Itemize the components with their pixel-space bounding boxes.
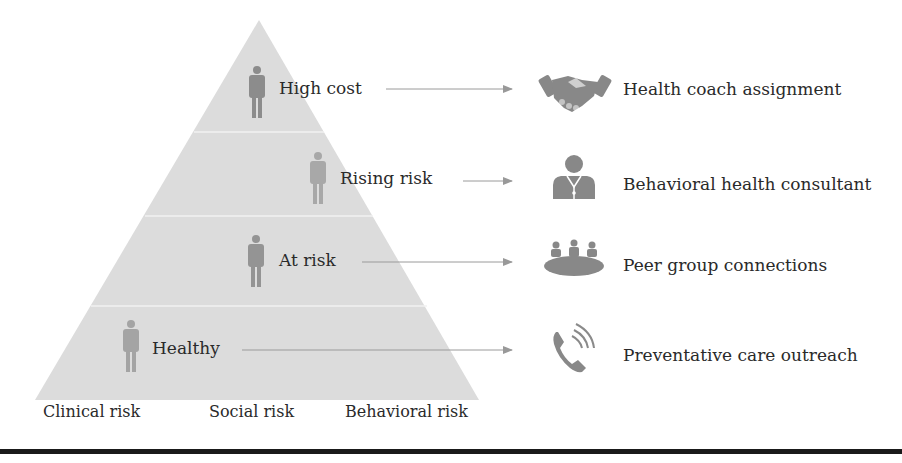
risk-pyramid-diagram: High cost Rising risk At risk Healthy He… bbox=[0, 0, 902, 463]
phone-call-icon bbox=[553, 324, 594, 372]
diagram-graphics bbox=[0, 0, 902, 463]
intervention-peer-group: Peer group connections bbox=[623, 257, 827, 274]
bottom-rule bbox=[0, 449, 902, 454]
group-meeting-icon bbox=[544, 240, 604, 277]
intervention-behavioral-consultant: Behavioral health consultant bbox=[623, 176, 871, 193]
axis-label-behavioral-risk: Behavioral risk bbox=[345, 404, 468, 420]
consultant-doctor-icon bbox=[553, 155, 595, 199]
tier-label-healthy: Healthy bbox=[152, 340, 220, 357]
intervention-preventative-outreach: Preventative care outreach bbox=[623, 347, 858, 364]
intervention-health-coach: Health coach assignment bbox=[623, 81, 841, 98]
handshake-icon bbox=[538, 74, 612, 112]
tier-label-high-cost: High cost bbox=[279, 80, 362, 97]
axis-label-social-risk: Social risk bbox=[209, 404, 294, 420]
tier-label-rising-risk: Rising risk bbox=[340, 170, 432, 187]
axis-label-clinical-risk: Clinical risk bbox=[43, 404, 140, 420]
tier-label-at-risk: At risk bbox=[279, 252, 336, 269]
